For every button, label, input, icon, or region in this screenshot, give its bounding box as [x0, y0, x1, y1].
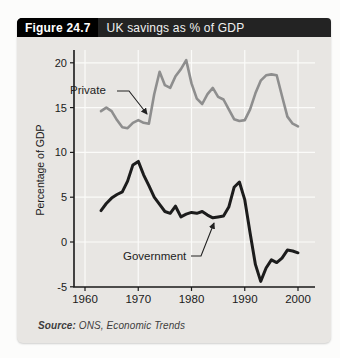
x-tick-label: 1960 — [72, 293, 98, 305]
private-series-label: Private — [70, 84, 106, 96]
government-label-arrow — [191, 223, 214, 256]
y-tick-label: 5 — [61, 191, 67, 203]
x-tick-label: 1970 — [125, 293, 151, 305]
government-series-line — [101, 161, 298, 281]
y-tick-label: 10 — [55, 146, 67, 158]
x-tick-label: 1990 — [232, 293, 258, 305]
x-tick-label: 2000 — [285, 293, 311, 305]
source-agency: ONS, — [76, 320, 107, 331]
y-tick-label: 15 — [55, 102, 67, 114]
source-publication: Economic Trends — [107, 320, 186, 331]
government-series-label: Government — [123, 250, 187, 262]
y-tick-label: 0 — [61, 236, 67, 248]
x-tick-label: 1980 — [179, 293, 205, 305]
private-series-line — [101, 60, 298, 128]
figure-header: Figure 24.7 UK savings as % of GDP — [17, 18, 331, 37]
figure-number: Figure 24.7 — [17, 18, 98, 37]
private-label-arrow — [117, 91, 147, 114]
source-note: Source: ONS, Economic Trends — [38, 320, 185, 331]
figure-title: UK savings as % of GDP — [98, 21, 245, 35]
y-tick-label: 20 — [55, 57, 67, 69]
y-axis-title: Percentage of GDP — [34, 124, 46, 215]
source-label: Source: — [38, 320, 76, 331]
y-tick-label: -5 — [57, 281, 67, 293]
savings-line-chart: 20151050-519601970198019902000 Percentag… — [17, 37, 331, 319]
figure-card: Figure 24.7 UK savings as % of GDP 20151… — [17, 18, 331, 343]
